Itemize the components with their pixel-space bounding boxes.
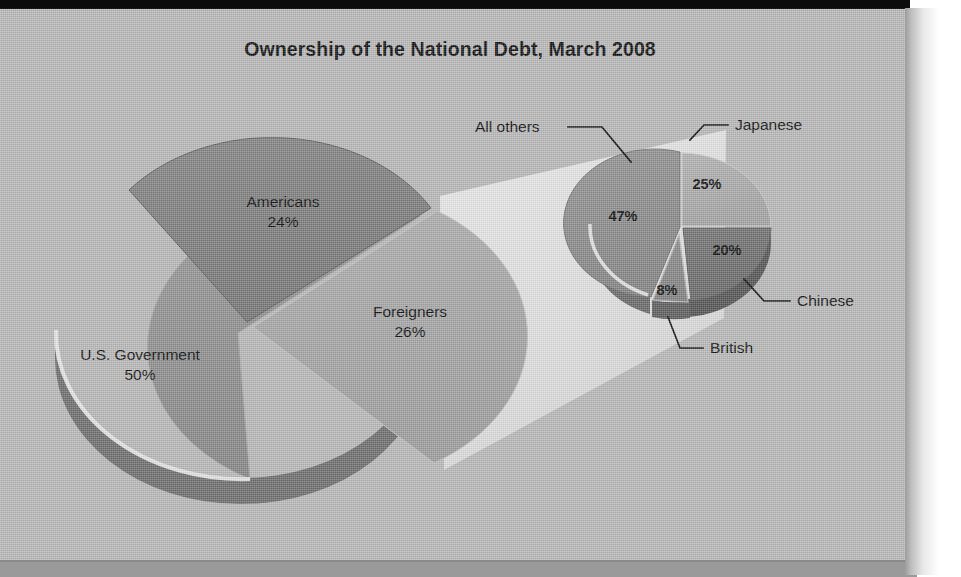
main-label-americans: Americans 24%	[246, 192, 319, 233]
main-label-foreigners-percent: 26%	[373, 322, 447, 342]
detail-percent-british: 8%	[657, 281, 678, 300]
detail-label-japanese: Japanese	[735, 115, 802, 135]
main-label-foreigners-text: Foreigners	[373, 302, 447, 322]
detail-slice-british-wall	[652, 300, 690, 319]
detail-slice-chinese	[683, 228, 771, 301]
main-label-us-government-text: U.S. Government	[80, 345, 200, 365]
detail-label-chinese: Chinese	[797, 291, 854, 311]
detail-percent-japanese: 25%	[692, 175, 721, 194]
main-label-us-government: U.S. Government 50%	[80, 345, 200, 386]
detail-label-british: British	[710, 338, 753, 358]
detail-percent-all-others: 47%	[608, 207, 637, 226]
detail-label-all-others: All others	[475, 117, 540, 137]
page-right-edge-shading	[905, 8, 961, 575]
detail-percent-chinese: 20%	[712, 241, 741, 260]
main-label-us-government-percent: 50%	[80, 365, 200, 385]
main-label-americans-percent: 24%	[246, 212, 319, 232]
main-label-foreigners: Foreigners 26%	[373, 302, 447, 343]
chart-title: Ownership of the National Debt, March 20…	[0, 38, 900, 61]
main-label-americans-text: Americans	[246, 192, 319, 212]
page-bottom-band	[0, 560, 917, 577]
